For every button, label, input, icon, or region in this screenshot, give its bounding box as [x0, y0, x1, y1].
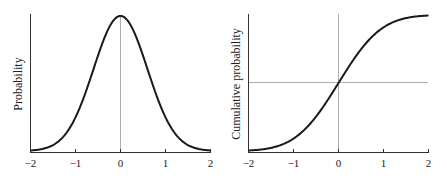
tick-label: 2 [426, 157, 432, 169]
figure: −2 −1 0 1 2 Probability −2 −1 0 1 2 Cumu… [0, 0, 447, 179]
tick-label: 1 [163, 157, 169, 169]
tick-label: 0 [336, 157, 342, 169]
tick-label: −2 [25, 157, 37, 169]
tick-label: 1 [381, 157, 387, 169]
tick-label: −1 [288, 157, 300, 169]
pdf-chart: −2 −1 0 1 2 Probability [11, 14, 213, 169]
tick-label: 0 [118, 157, 124, 169]
tick-label: −2 [243, 157, 255, 169]
y-axis-label: Probability [11, 57, 25, 110]
tick-label: −1 [70, 157, 82, 169]
cdf-chart: −2 −1 0 1 2 Cumulative probability [229, 14, 431, 169]
y-axis-label: Cumulative probability [229, 28, 243, 140]
tick-label: 2 [208, 157, 214, 169]
